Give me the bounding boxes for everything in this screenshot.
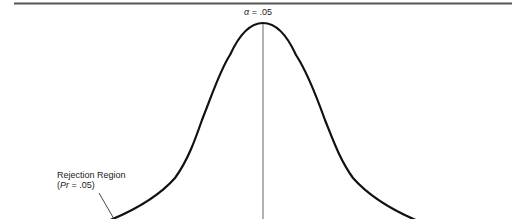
rejection-region-label: Rejection Region (Pr = .05) xyxy=(57,170,126,190)
alpha-value: = .05 xyxy=(249,7,272,17)
alpha-label: α = .05 xyxy=(244,7,272,17)
pr-symbol: Pr xyxy=(60,180,69,190)
pr-value: = .05) xyxy=(69,180,95,190)
rejection-leader-line xyxy=(99,193,114,219)
rejection-region-title: Rejection Region xyxy=(57,170,126,180)
rejection-region-probability: (Pr = .05) xyxy=(57,180,126,190)
normal-distribution-diagram: α = .05 Rejection Region (Pr = .05) xyxy=(0,0,518,219)
